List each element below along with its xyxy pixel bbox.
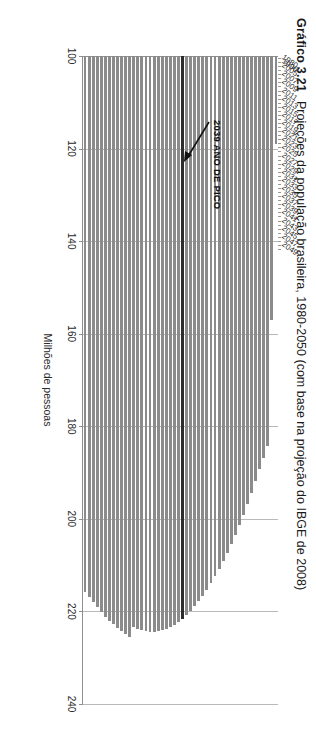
bar [275,56,278,144]
bar [238,56,241,525]
category-tick [278,184,281,185]
value-axis-tick [79,704,83,705]
value-axis-tick-label: 140 [66,233,77,250]
value-axis-tick [79,611,83,612]
bar [124,56,127,634]
category-tick [278,241,281,242]
bar [136,56,139,629]
bar [84,56,87,592]
bar [145,56,148,631]
bar [242,56,245,515]
bar [226,56,229,553]
category-tick [278,70,281,71]
category-tick [278,200,281,201]
category-tick [278,176,281,177]
category-tick [278,78,281,79]
category-tick [278,119,281,120]
bar [92,56,95,602]
category-tick [278,192,281,193]
bar [258,56,261,469]
bar [104,56,107,617]
value-axis-tick-label: 180 [66,418,77,435]
bar [100,56,103,612]
bar [88,56,91,597]
value-axis: 100120140160180200220240 [49,56,83,704]
bar [270,56,273,320]
bar [128,56,131,637]
figure: Gráfico 3.21Projeções da população brasi… [0,0,316,745]
category-tick [278,168,281,169]
bar [230,56,233,544]
bar [112,56,115,624]
peak-annotation-arrow [153,118,213,178]
category-tick [278,225,281,226]
bar [254,56,257,481]
bar [116,56,119,628]
peak-annotation-label: 2039 ANO DE PICO [212,120,223,209]
bar [234,56,237,535]
value-axis-tick-label: 120 [66,140,77,157]
bar [96,56,99,607]
bar [266,56,269,446]
category-tick [278,103,281,104]
category-tick [278,86,281,87]
category-tick [278,151,281,152]
value-axis-line [82,56,83,704]
gridline [83,704,278,705]
bar [108,56,111,621]
value-axis-tick [79,56,83,57]
category-tick [278,95,281,96]
bar [262,56,265,458]
bar [149,56,152,632]
value-axis-tick-label: 220 [66,603,77,620]
value-axis-tick [79,519,83,520]
category-tick [278,216,281,217]
value-axis-title: Milhões de pessoas [42,56,54,704]
value-axis-tick-label: 160 [66,325,77,342]
category-tick [278,111,281,112]
category-tick [278,233,281,234]
category-tick [278,249,281,250]
bar [250,56,253,493]
category-tick [278,127,281,128]
category-tick [278,208,281,209]
value-axis-tick [79,149,83,150]
value-axis-tick [79,426,83,427]
value-axis-tick [79,241,83,242]
category-axis: 1980199620052007200920112013201520172019… [278,56,316,704]
value-axis-tick-label: 240 [66,696,77,713]
value-axis-tick-label: 200 [66,511,77,528]
value-axis-tick [79,334,83,335]
category-tick [278,160,281,161]
value-axis-tick-label: 100 [66,48,77,65]
bar [120,56,123,631]
bar [140,56,143,630]
bar [246,56,249,504]
bar [132,56,135,627]
category-tick [278,143,281,144]
category-tick [278,135,281,136]
